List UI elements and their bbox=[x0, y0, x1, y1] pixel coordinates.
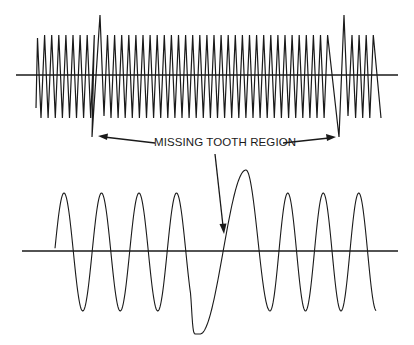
missing-tooth-region-label: MISSING TOOTH REGION bbox=[154, 136, 296, 148]
leader-down bbox=[215, 154, 223, 226]
leader-left bbox=[104, 137, 155, 143]
arrowhead-left-icon bbox=[98, 134, 108, 141]
top-sensor-waveform bbox=[36, 15, 381, 137]
missing-tooth-diagram bbox=[0, 0, 414, 345]
arrowhead-down-icon bbox=[220, 224, 227, 235]
bottom-conditioned-waveform bbox=[55, 170, 376, 334]
arrowhead-right-icon bbox=[326, 134, 336, 141]
